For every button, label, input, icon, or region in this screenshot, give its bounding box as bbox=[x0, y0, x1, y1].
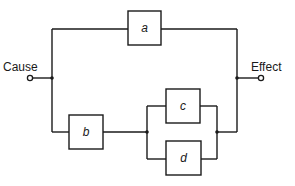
block-c-label: c bbox=[166, 100, 200, 112]
cause-label: Cause bbox=[3, 61, 38, 73]
block-b-label: b bbox=[69, 126, 103, 138]
block-d-label: d bbox=[166, 152, 201, 164]
block-diagram: Cause Effect a b c d bbox=[0, 0, 295, 186]
effect-terminal-icon bbox=[258, 75, 263, 80]
block-a-label: a bbox=[128, 22, 161, 34]
cause-terminal-icon bbox=[27, 75, 32, 80]
effect-label: Effect bbox=[251, 61, 281, 73]
